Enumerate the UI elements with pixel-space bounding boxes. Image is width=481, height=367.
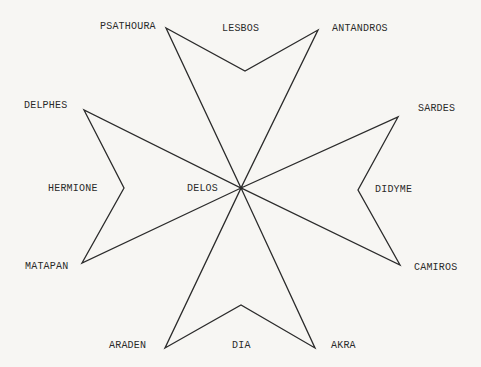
label-delos: DELOS: [187, 184, 218, 194]
label-lesbos: LESBOS: [222, 24, 259, 34]
maltese-cross-shape: [82, 28, 400, 348]
label-hermione: HERMIONE: [48, 184, 98, 194]
label-psathoura: PSATHOURA: [100, 22, 156, 32]
label-dia: DIA: [232, 341, 251, 351]
label-sardes: SARDES: [418, 104, 455, 114]
label-delphes: DELPHES: [24, 101, 67, 111]
label-camiros: CAMIROS: [414, 263, 457, 273]
label-akra: AKRA: [331, 341, 356, 351]
label-antandros: ANTANDROS: [332, 24, 388, 34]
label-matapan: MATAPAN: [25, 262, 68, 272]
label-araden: ARADEN: [109, 341, 146, 351]
label-didyme: DIDYME: [375, 185, 412, 195]
